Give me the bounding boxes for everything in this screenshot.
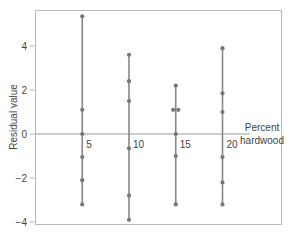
residual-point: [220, 180, 224, 184]
residual-point: [127, 146, 131, 150]
residual-point: [220, 155, 224, 159]
y-tick-label: 0: [21, 129, 27, 140]
residual-point: [127, 218, 131, 222]
residual-point: [174, 202, 178, 206]
residual-point: [176, 108, 180, 112]
residual-point: [171, 108, 175, 112]
residual-point: [127, 53, 131, 57]
residual-series: [80, 14, 224, 222]
residual-point: [80, 108, 84, 112]
residual-column-10: [127, 53, 131, 222]
residual-point: [174, 84, 178, 88]
residual-plot: 420−2−4 5101520 Residual value Percent h…: [0, 0, 295, 238]
plot-frame: [36, 11, 282, 225]
x-axis-tick-labels: 5101520: [86, 139, 238, 150]
residual-point: [220, 202, 224, 206]
y-axis-title: Residual value: [8, 84, 19, 150]
residual-point: [220, 110, 224, 114]
y-tick-label: 4: [21, 41, 27, 52]
residual-point: [80, 202, 84, 206]
y-tick-label: −4: [16, 217, 28, 228]
residual-point: [80, 155, 84, 159]
residual-column-5: [80, 14, 84, 206]
x-tick-label: 5: [86, 139, 92, 150]
residual-point: [80, 178, 84, 182]
residual-point: [127, 99, 131, 103]
residual-point: [127, 194, 131, 198]
residual-point: [174, 154, 178, 158]
y-tick-label: −2: [16, 173, 28, 184]
residual-point: [80, 132, 84, 136]
residual-point: [220, 46, 224, 50]
residual-point: [127, 79, 131, 83]
x-tick-label: 20: [227, 139, 239, 150]
residual-column-20: [220, 46, 224, 206]
residual-point: [220, 91, 224, 95]
residual-point: [80, 14, 84, 18]
x-tick-label: 10: [133, 139, 145, 150]
y-tick-label: 2: [21, 85, 27, 96]
x-axis-title-line2: hardwood: [240, 135, 284, 146]
x-tick-label: 15: [180, 139, 192, 150]
residual-point: [174, 132, 178, 136]
x-axis-title-line1: Percent: [245, 122, 280, 133]
